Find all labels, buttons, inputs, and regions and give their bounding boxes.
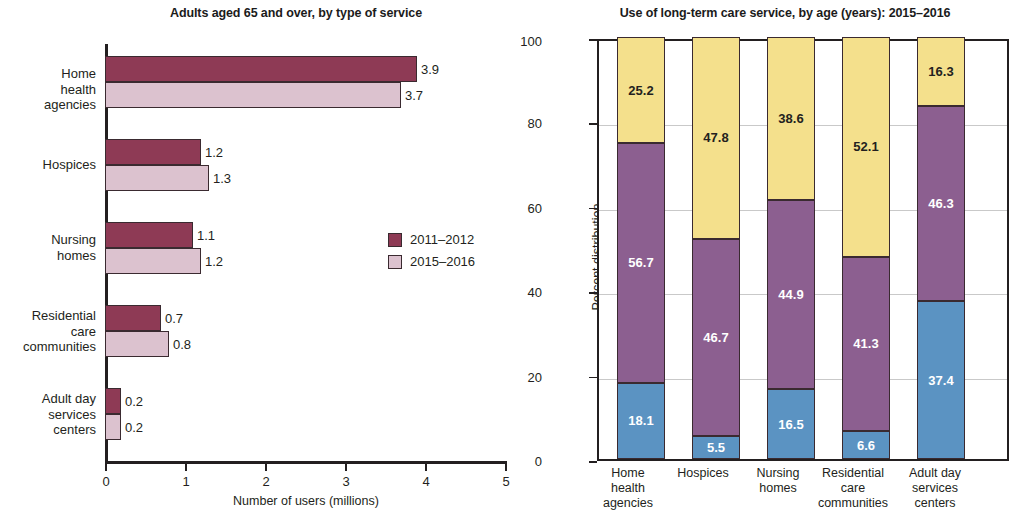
right-segment-65-84[interactable]: 41.3 [842,257,890,431]
left-bar-value: 0.7 [165,311,183,326]
left-bar-value: 0.8 [173,337,191,352]
left-bar-value: 3.7 [405,88,423,103]
left-bar-2011[interactable]: 3.9 [105,56,417,82]
right-segment-65-84[interactable]: 56.7 [617,143,665,382]
label-line: care [810,481,896,496]
label-line: agencies [589,496,667,511]
right-segment-value: 38.6 [778,112,803,125]
legend-item-2015-2016[interactable]: 2015–2016 [388,254,475,269]
left-bar-2015[interactable]: 0.2 [105,414,121,440]
left-bar-2011[interactable]: 0.2 [105,388,121,414]
y-axis-tick [589,292,597,294]
left-chart-legend: 2011–2012 2015–2016 [388,232,475,276]
x-axis-tick [265,463,267,471]
right-segment-85-and-over[interactable]: 38.6 [767,37,815,200]
left-bar-value: 1.2 [205,254,223,269]
y-axis-tick-label: 80 [502,116,542,131]
left-bar-value: 1.1 [197,228,215,243]
right-segment-value: 6.6 [857,439,875,452]
legend-item-2011-2012[interactable]: 2011–2012 [388,232,475,247]
legend-swatch-icon [388,233,402,247]
x-axis-tick-label: 4 [422,474,429,489]
right-segment-value: 37.4 [928,374,953,387]
right-category-label: Adult day services centers [895,466,975,511]
left-category-label: Adult day services centers [42,391,96,438]
label-line: homes [739,481,817,496]
left-bar-value: 0.2 [125,394,143,409]
left-bar-2015[interactable]: 0.8 [105,331,169,357]
right-segment-value: 52.1 [853,140,878,153]
right-segment-value: 44.9 [778,288,803,301]
y-axis-tick [589,39,597,41]
label-line: Hospices [43,157,96,173]
legend-swatch-icon [388,255,402,269]
right-segment-value: 56.7 [628,256,653,269]
label-line: centers [895,496,975,511]
left-bar-value: 3.9 [421,62,439,77]
label-line: communities [23,339,96,355]
label-line: Residential [810,466,896,481]
right-segment-value: 16.5 [778,418,803,431]
label-line: homes [51,248,96,264]
label-line: agencies [44,97,96,113]
right-category-label: Home health agencies [589,466,667,511]
left-chart-x-axis-line [105,461,507,464]
right-segment-value: 25.2 [628,84,653,97]
right-segment-85-and-over[interactable]: 16.3 [917,37,965,106]
left-category-label: Nursing homes [51,232,96,263]
left-bar-value: 1.2 [205,145,223,160]
right-segment-85-and-over[interactable]: 47.8 [692,37,740,239]
label-line: Nursing [739,466,817,481]
label-line: services [42,407,96,423]
right-chart-plot-area: 18.1 56.7 25.2 5.5 46.7 47.8 16.5 [597,39,1009,461]
label-line: Hospices [664,466,742,481]
x-axis-tick [425,463,427,471]
right-segment-value: 16.3 [928,65,953,78]
y-axis-tick [589,208,597,210]
y-axis-tick-label: 40 [502,285,542,300]
y-axis-tick-label: 0 [502,454,542,469]
right-segment-value: 5.5 [707,441,725,454]
y-axis-tick [589,377,597,379]
x-axis-tick [345,463,347,471]
right-chart-title: Use of long-term care service, by age (y… [565,6,1005,20]
x-axis-tick [185,463,187,471]
x-axis-tick-label: 1 [182,474,189,489]
left-bar-2015[interactable]: 3.7 [105,82,401,108]
x-axis-tick-label: 2 [262,474,269,489]
right-segment-65-84[interactable]: 46.7 [692,239,740,436]
left-bar-2011[interactable]: 1.1 [105,222,193,248]
y-axis-tick [589,123,597,125]
right-segment-value: 46.7 [703,331,728,344]
label-line: Nursing [51,232,96,248]
left-category-label: Residential care communities [23,308,96,355]
right-segment-under-65[interactable]: 5.5 [692,436,740,459]
x-axis-tick-label: 3 [342,474,349,489]
left-bar-value: 1.3 [213,171,231,186]
left-category-label: Home health agencies [44,66,96,113]
right-segment-value: 41.3 [853,337,878,350]
label-line: Home [589,466,667,481]
right-segment-value: 46.3 [928,197,953,210]
right-category-label: Nursing homes [739,466,817,496]
label-line: care [23,324,96,340]
label-line: Adult day [42,391,96,407]
y-axis-tick-label: 60 [502,200,542,215]
right-segment-85-and-over[interactable]: 52.1 [842,37,890,257]
right-segment-65-84[interactable]: 44.9 [767,200,815,390]
label-line: health [589,481,667,496]
left-bar-2015[interactable]: 1.3 [105,165,209,191]
y-axis-tick-label: 20 [502,369,542,384]
left-bar-2011[interactable]: 0.7 [105,305,161,331]
left-bar-2011[interactable]: 1.2 [105,139,201,165]
right-segment-85-and-over[interactable]: 25.2 [617,37,665,143]
left-bar-2015[interactable]: 1.2 [105,248,201,274]
y-axis-tick [589,461,597,463]
left-category-label: Hospices [43,157,96,173]
right-segment-value: 18.1 [628,414,653,427]
right-segment-under-65[interactable]: 37.4 [917,301,965,459]
right-segment-under-65[interactable]: 18.1 [617,383,665,459]
right-segment-65-84[interactable]: 46.3 [917,106,965,301]
right-segment-under-65[interactable]: 6.6 [842,431,890,459]
right-segment-under-65[interactable]: 16.5 [767,389,815,459]
